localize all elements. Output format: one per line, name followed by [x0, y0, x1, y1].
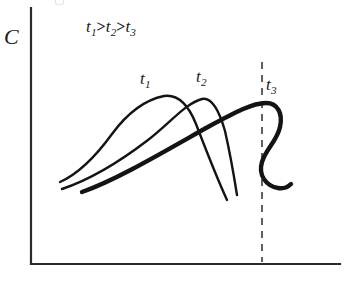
- relation-term-2: t: [106, 17, 111, 36]
- y-axis-label: C: [4, 26, 19, 48]
- curve-t3: [82, 103, 291, 192]
- inequality-relation: t1>t2>t3: [86, 18, 136, 38]
- curve-label-t3: t3: [266, 76, 277, 96]
- plot-area: [0, 0, 354, 281]
- curve-t2: [62, 99, 237, 195]
- relation-subscript-3: 3: [130, 26, 136, 38]
- curve-label-t3-subscript: 3: [271, 84, 277, 96]
- figure-canvas: C t1>t2>t3 t1 t2 t3: [0, 0, 354, 281]
- relation-operator-2: >: [116, 18, 125, 35]
- curve-label-t1: t1: [140, 70, 151, 90]
- axes-group: [31, 8, 340, 264]
- curve-label-t2: t2: [196, 68, 207, 88]
- curve-t1: [60, 96, 227, 200]
- curve-label-t2-subscript: 2: [201, 76, 207, 88]
- curve-label-t1-subscript: 1: [145, 78, 151, 90]
- relation-operator-1: >: [97, 18, 106, 35]
